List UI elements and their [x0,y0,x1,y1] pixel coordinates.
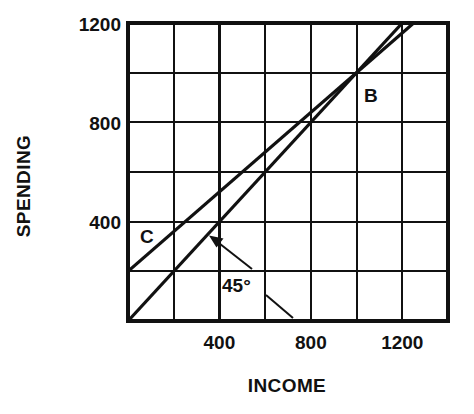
y-axis-title: SPENDING [13,135,34,237]
point-b-label: B [364,85,378,106]
x-axis-title: INCOME [248,375,326,396]
y-tick-800: 800 [89,113,121,134]
curve-c-label: C [140,226,154,247]
chart-figure: 1200 800 400 400 800 1200 INCOME SPENDIN… [0,0,474,414]
angle-45-label: 45° [222,275,251,296]
x-tick-400: 400 [204,332,236,353]
x-tick-1200: 1200 [381,332,423,353]
y-tick-400: 400 [89,212,121,233]
y-tick-1200: 1200 [79,14,121,35]
spending-income-chart: 1200 800 400 400 800 1200 INCOME SPENDIN… [0,0,474,414]
x-tick-800: 800 [295,332,327,353]
